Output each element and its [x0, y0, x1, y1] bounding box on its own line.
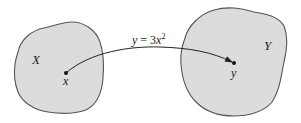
- set-x-label: X: [31, 52, 41, 67]
- point-y-dot: [232, 61, 236, 65]
- point-x-label: x: [62, 74, 69, 88]
- function-eq: = 3: [137, 33, 156, 47]
- point-y-label: y: [230, 66, 237, 80]
- function-label: y = 3x2: [131, 32, 165, 47]
- function-mapping-diagram: X Y x y y = 3x2: [0, 0, 301, 123]
- function-exponent: 2: [161, 32, 165, 41]
- set-x-blob: [14, 22, 103, 113]
